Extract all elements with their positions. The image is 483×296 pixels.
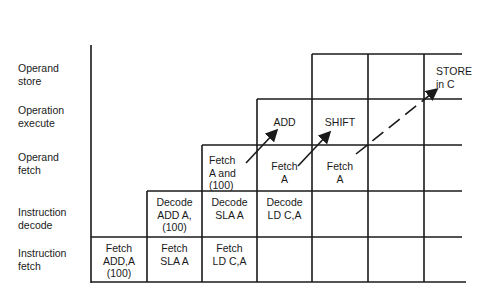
cell-exec-shift: SHIFT <box>312 116 368 129</box>
cell-decode-add: Decode ADD A, (100) <box>147 196 202 234</box>
cell-opfetch-sla: Fetch A <box>257 160 312 185</box>
cell-decode-ld: Decode LD C,A <box>257 196 312 221</box>
stage-label-operation-execute: Operation execute <box>18 104 64 130</box>
cell-opfetch-add: Fetch A and (100) <box>209 154 249 192</box>
cell-decode-sla: Decode SLA A <box>202 196 257 221</box>
cell-exec-add: ADD <box>257 116 312 129</box>
cell-store-c: STORE in C <box>436 65 476 90</box>
stage-label-operand-store: Operand store <box>18 62 59 88</box>
cell-opfetch-ld: Fetch A <box>312 160 368 185</box>
cell-fetch-sla: Fetch SLA A <box>147 242 202 267</box>
cell-fetch-add: Fetch ADD,A (100) <box>91 242 147 280</box>
stage-label-instruction-fetch: Instruction fetch <box>18 247 66 273</box>
cell-fetch-ld: Fetch LD C,A <box>202 242 257 267</box>
stage-label-operand-fetch: Operand fetch <box>18 151 59 177</box>
stage-label-instruction-decode: Instruction decode <box>18 206 66 232</box>
